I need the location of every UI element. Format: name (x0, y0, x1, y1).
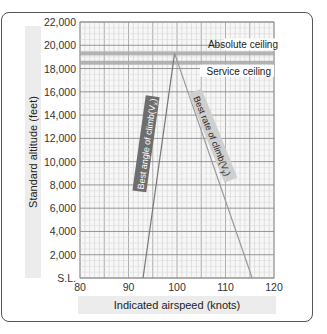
y-tick-label: 10,000 (44, 156, 76, 168)
x-axis-label: Indicated airspeed (knots) (114, 299, 241, 311)
y-tick-label: 4,000 (50, 225, 76, 237)
y-tick-label: 14,000 (44, 109, 76, 121)
x-tick-label: 80 (74, 281, 86, 293)
y-tick-label: 22,000 (44, 16, 76, 28)
y-axis-label: Standard altitude (feet) (27, 96, 39, 208)
y-tick-label: 18,000 (44, 63, 76, 75)
y-tick-label: 16,000 (44, 86, 76, 98)
x-tick-label: 90 (123, 281, 135, 293)
x-tick-label: 100 (168, 281, 186, 293)
y-tick-label: 8,000 (50, 179, 76, 191)
y-tick-label: 6,000 (50, 202, 76, 214)
x-tick-label: 110 (217, 281, 234, 293)
x-tick-label: 120 (265, 281, 283, 293)
y-tick-label: 12,000 (44, 132, 76, 144)
y-tick-label: 20,000 (44, 39, 76, 51)
absolute-ceiling-label: Absolute ceiling (208, 39, 278, 50)
service-ceiling-label: Service ceiling (207, 66, 271, 77)
y-tick-label: 2,000 (50, 249, 76, 261)
ceiling-band (80, 51, 274, 55)
climb-performance-chart: Absolute ceilingService ceiling Best ang… (0, 0, 327, 334)
